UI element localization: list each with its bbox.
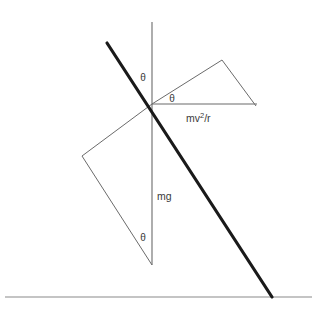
physics-force-diagram: θ θ θ mg mv2/r <box>0 0 318 318</box>
centripetal-force-label: mv2/r <box>186 110 211 123</box>
diagram-canvas: θ θ θ mg mv2/r <box>0 0 318 318</box>
inclined-rod-line <box>107 43 272 297</box>
upper-force-triangle <box>152 60 256 106</box>
theta-label-upper-left: θ <box>140 72 146 83</box>
centripetal-base-text: mv <box>186 112 201 124</box>
theta-label-center: θ <box>169 93 175 104</box>
centripetal-tail-text: /r <box>204 112 211 124</box>
weight-force-label: mg <box>157 190 172 202</box>
theta-label-lower: θ <box>140 232 146 243</box>
